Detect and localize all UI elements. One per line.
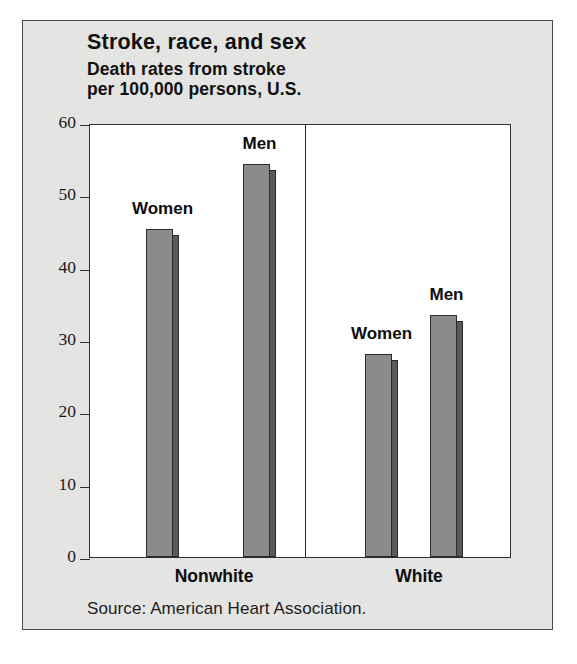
y-axis-tick-mark [80, 342, 90, 343]
y-axis-tick-label: 40 [59, 259, 77, 277]
y-axis-tick: 60 [36, 125, 90, 126]
bar-label: Women [132, 199, 193, 219]
y-axis-tick-label: 20 [59, 403, 77, 421]
x-axis-category-label: White [395, 566, 443, 587]
bar-shadow [457, 321, 463, 557]
bar[interactable]: Women [146, 229, 179, 557]
bar-body [365, 354, 392, 557]
bar-label: Men [430, 285, 464, 305]
y-axis-tick-mark [80, 414, 90, 415]
bar-label: Men [243, 134, 277, 154]
bar-shadow [173, 235, 179, 557]
chart-title: Stroke, race, and sex [87, 31, 507, 54]
y-axis-tick: 30 [36, 342, 90, 343]
bar-body [146, 229, 173, 557]
bar[interactable]: Men [243, 164, 276, 557]
bar-label: Women [351, 324, 412, 344]
bar-shadow [270, 170, 276, 557]
x-axis-category-label: Nonwhite [175, 566, 254, 587]
bar[interactable]: Men [430, 315, 463, 557]
y-axis-tick: 20 [36, 414, 90, 415]
y-axis-tick-mark [80, 559, 90, 560]
y-axis-tick-mark [80, 197, 90, 198]
y-axis-tick-mark [80, 270, 90, 271]
bar-body [430, 315, 457, 557]
chart-figure: Stroke, race, and sex Death rates from s… [22, 20, 553, 630]
source-note: Source: American Heart Association. [87, 599, 366, 619]
y-axis-tick-label: 0 [67, 548, 76, 566]
y-axis-tick-label: 30 [59, 331, 77, 349]
y-axis-tick: 0 [36, 559, 90, 560]
bar[interactable]: Women [365, 354, 398, 557]
chart-subtitle: Death rates from stroke per 100,000 pers… [87, 59, 507, 100]
plot-area: 0102030405060WomenMenWomenMen [89, 124, 511, 558]
y-axis-tick: 10 [36, 487, 90, 488]
y-axis-tick-mark [80, 125, 90, 126]
y-axis-tick-mark [80, 487, 90, 488]
bar-shadow [392, 360, 398, 557]
bar-body [243, 164, 270, 557]
y-axis-tick-label: 50 [59, 186, 77, 204]
y-axis-tick: 40 [36, 270, 90, 271]
y-axis-tick-label: 10 [59, 476, 77, 494]
title-block: Stroke, race, and sex Death rates from s… [87, 31, 507, 100]
y-axis-tick-label: 60 [59, 114, 77, 132]
y-axis-tick: 50 [36, 197, 90, 198]
group-divider [305, 125, 306, 557]
